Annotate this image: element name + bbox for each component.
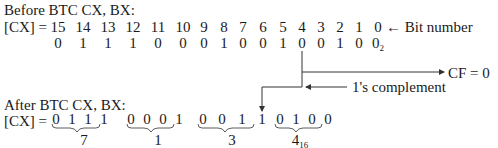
after-register-label: [CX] = [4,114,47,129]
hex-digit: 416 [290,133,310,148]
bit-value: 0 [193,112,213,127]
carry-flag-result: CF = 0 [448,66,490,81]
hex-digit: 1 [148,133,168,148]
bit-value: 1 [252,112,272,127]
complement-label: 1's complement [352,80,446,95]
bit-value: 1 [232,112,252,127]
bit-value: 0 [212,112,232,127]
bit-value: 0 [318,112,338,127]
bit-value: 1 [169,112,189,127]
hex-digit: 7 [74,133,94,148]
hex-digit: 3 [222,133,242,148]
bit-value: 1 [94,112,114,127]
hex-subscript: 16 [299,140,308,148]
